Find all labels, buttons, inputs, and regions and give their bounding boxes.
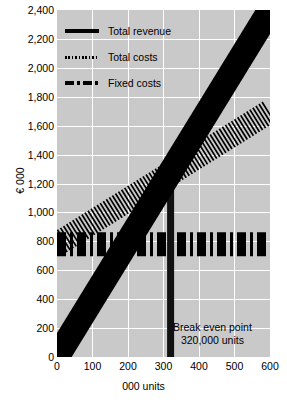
break-even-annotation: Break even point 320,000 units — [173, 321, 252, 346]
y-tick-label: 400 — [36, 294, 54, 305]
legend-item-total-costs: Total costs — [65, 44, 195, 70]
y-tick-label: 2,000 — [28, 63, 54, 74]
x-tick-label: 400 — [179, 361, 219, 372]
x-axis-title: 000 units — [0, 381, 287, 392]
legend-item-fixed-costs: Fixed costs — [65, 70, 195, 96]
x-tick-label: 500 — [215, 361, 255, 372]
x-tick-label: 100 — [73, 361, 113, 372]
y-tick-label: 2,200 — [28, 34, 54, 45]
y-tick-label: 1,800 — [28, 92, 54, 103]
legend: Total revenue Total costs Fixed costs — [65, 18, 195, 96]
y-tick-label: 1,400 — [28, 150, 54, 161]
legend-label: Fixed costs — [108, 78, 161, 89]
y-tick-label: 2,400 — [28, 5, 54, 16]
y-tick-label: 600 — [36, 265, 54, 276]
y-tick-label: 800 — [36, 236, 54, 247]
break-even-chart: Break even point 320,000 units Total rev… — [0, 0, 287, 410]
legend-label: Total revenue — [108, 26, 171, 37]
x-tick-label: 200 — [108, 361, 148, 372]
y-tick-label: 1,000 — [28, 207, 54, 218]
legend-label: Total costs — [108, 52, 158, 63]
break-even-annotation-line2: 320,000 units — [173, 334, 252, 347]
y-tick-label: 1,200 — [28, 179, 54, 190]
y-tick-label: 1,600 — [28, 121, 54, 132]
x-tick-label: 300 — [144, 361, 184, 372]
plot-area: Break even point 320,000 units Total rev… — [57, 10, 270, 357]
y-tick-label: 200 — [36, 323, 54, 334]
legend-swatch-dotted-line-icon — [65, 51, 99, 63]
legend-item-total-revenue: Total revenue — [65, 18, 195, 44]
y-axis-title: € 000 — [15, 151, 26, 211]
legend-swatch-solid-line-icon — [65, 25, 99, 37]
x-tick-label: 0 — [37, 361, 77, 372]
break-even-annotation-line1: Break even point — [173, 321, 252, 334]
legend-swatch-dash-dot-line-icon — [65, 77, 99, 89]
x-tick-label: 600 — [250, 361, 287, 372]
